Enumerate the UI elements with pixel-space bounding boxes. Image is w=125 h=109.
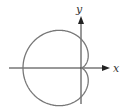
- y-axis: [78, 16, 84, 104]
- y-axis-label: y: [75, 3, 83, 16]
- x-axis-label: x: [113, 62, 120, 75]
- y-axis-arrow-icon: [78, 16, 84, 24]
- x-axis-arrow-icon: [102, 65, 110, 71]
- cardioid-diagram: x y: [0, 0, 125, 109]
- x-axis: [9, 65, 110, 71]
